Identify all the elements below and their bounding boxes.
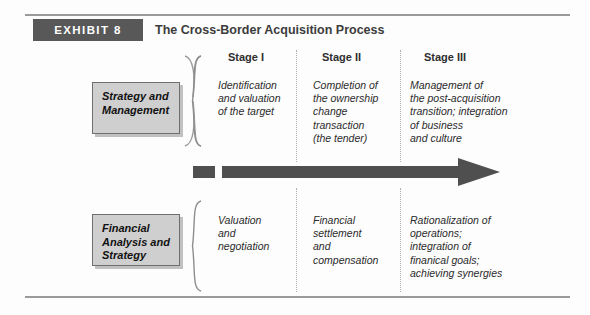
stage-header-3: Stage III <box>424 51 466 63</box>
row-label-financial-analysis-and-strategy: Financial Analysis and Strategy <box>92 214 180 266</box>
column-divider-1-upper <box>296 50 297 162</box>
cell-stage3-financial: Rationalization of operations; integrati… <box>410 214 540 280</box>
exhibit-figure: EXHIBIT 8 The Cross-Border Acquisition P… <box>0 0 590 315</box>
bottom-rule <box>25 296 570 298</box>
column-divider-2-lower <box>400 188 401 292</box>
row-label-strategy-and-management: Strategy and Management <box>92 82 180 134</box>
column-divider-2-upper <box>400 50 401 162</box>
cell-stage1-financial: Valuation and negotiation <box>218 214 296 254</box>
curly-brace-icon-top <box>183 55 205 147</box>
top-rule <box>25 14 570 16</box>
column-divider-1-lower <box>296 188 297 292</box>
cell-stage2-strategy: Completion of the ownership change trans… <box>313 79 397 145</box>
process-arrow-dash <box>193 166 215 178</box>
exhibit-title: The Cross-Border Acquisition Process <box>155 19 384 41</box>
curly-brace-icon-bottom <box>183 200 205 292</box>
exhibit-tag: EXHIBIT 8 <box>33 19 143 41</box>
stage-header-1: Stage I <box>228 51 264 63</box>
cell-stage2-financial: Financial settlement and compensation <box>313 214 397 267</box>
stage-header-2: Stage II <box>322 51 361 63</box>
cell-stage1-strategy: Identification and valuation of the targ… <box>218 79 296 119</box>
process-arrow-icon <box>222 158 500 186</box>
cell-stage3-strategy: Management of the post-acquisition trans… <box>410 79 540 145</box>
